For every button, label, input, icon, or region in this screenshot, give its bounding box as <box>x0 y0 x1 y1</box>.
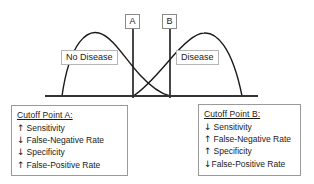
arrow-down-icon: ↓ <box>17 134 25 146</box>
annotation-list-cutoff-b: ↓Sensitivity↑False-Negative Rate↑Specifi… <box>204 121 295 170</box>
annotation-item: ↑False-Negative Rate <box>204 133 295 145</box>
annotation-item: ↓Specificity <box>17 146 122 158</box>
annotation-box-cutoff-a: Cutoff Point A: ↑Sensitivity↓False-Negat… <box>11 105 128 176</box>
arrow-down-icon: ↓ <box>204 158 212 170</box>
arrow-up-icon: ↑ <box>17 122 25 134</box>
cutoff-marker-a: A <box>125 14 140 29</box>
annotation-item-label: False-Negative Rate <box>27 135 104 145</box>
cutoff-marker-b: B <box>162 14 177 29</box>
arrow-up-icon: ↑ <box>204 133 212 145</box>
annotation-item: ↓Sensitivity <box>204 121 295 133</box>
cutoff-point-diagram: A B No Disease Disease Cutoff Point A: ↑… <box>0 0 314 184</box>
arrow-up-icon: ↑ <box>204 145 212 157</box>
annotation-item-label: False-Positive Rate <box>212 159 286 169</box>
annotation-item-label: Sensitivity <box>27 123 65 133</box>
annotation-item: ↓False-Negative Rate <box>17 134 122 146</box>
annotation-item-label: Specificity <box>214 146 252 156</box>
annotation-box-cutoff-b: Cutoff Point B: ↓Sensitivity↑False-Negat… <box>198 104 301 176</box>
distribution-chart: A B No Disease Disease <box>0 0 314 102</box>
annotation-item: ↓False-Positive Rate <box>204 158 295 170</box>
annotation-item-label: False-Negative Rate <box>214 134 291 144</box>
region-label-disease: Disease <box>176 50 219 65</box>
annotation-item-label: Sensitivity <box>214 122 252 132</box>
annotation-item: ↑Sensitivity <box>17 122 122 134</box>
annotation-item-label: Specificity <box>27 147 65 157</box>
arrow-down-icon: ↓ <box>204 121 212 133</box>
annotation-item: ↑Specificity <box>204 145 295 157</box>
annotation-item: ↑False-Positive Rate <box>17 159 122 171</box>
annotation-item-label: False-Positive Rate <box>27 160 101 170</box>
annotation-list-cutoff-a: ↑Sensitivity↓False-Negative Rate↓Specifi… <box>17 122 122 171</box>
curves-svg <box>0 0 314 102</box>
annotation-title-cutoff-b: Cutoff Point B: <box>204 109 295 119</box>
arrow-up-icon: ↑ <box>17 159 25 171</box>
arrow-down-icon: ↓ <box>17 146 25 158</box>
region-label-no-disease: No Disease <box>61 50 118 65</box>
annotation-title-cutoff-a: Cutoff Point A: <box>17 110 122 120</box>
